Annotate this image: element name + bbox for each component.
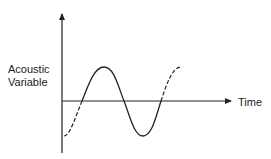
y-axis-label-line1: Acoustic: [8, 63, 58, 76]
y-axis-label-line2: Variable: [8, 76, 58, 89]
x-axis-label: Time: [238, 96, 262, 109]
wave-dashed-right: [161, 67, 181, 101]
wave-dashed-left: [64, 101, 82, 136]
acoustic-wave-diagram: Acoustic Variable Time: [0, 0, 271, 159]
y-axis-label: Acoustic Variable: [8, 63, 58, 89]
